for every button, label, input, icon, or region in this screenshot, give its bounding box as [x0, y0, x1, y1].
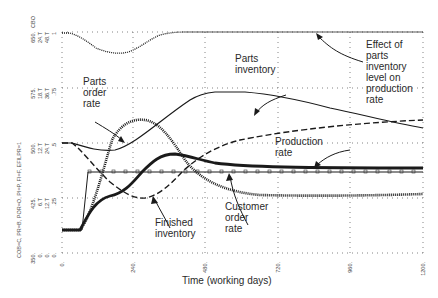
svg-text:24.T: 24.T [44, 142, 50, 154]
x-axis-title: Time (working days) [182, 275, 272, 286]
annotation-parts-inventory: Parts inventory [235, 53, 276, 75]
svg-text:240.: 240. [130, 262, 136, 273]
svg-text:350.: 350. [30, 253, 36, 264]
svg-text:6.T: 6.T [37, 197, 43, 206]
svg-text:12.T: 12.T [44, 197, 50, 209]
svg-text:960.: 960. [347, 262, 353, 273]
annotation-customer-order-rate: Customer order rate [225, 201, 271, 234]
svg-text:18.T: 18.T [37, 87, 43, 99]
svg-text:24.T: 24.T [37, 31, 43, 43]
arrow-finished-icon [151, 196, 158, 204]
svg-text:1: 1 [51, 32, 57, 35]
svg-text:0.: 0. [37, 253, 43, 258]
svg-text:575.: 575. [30, 88, 36, 99]
svg-text:480.: 480. [202, 262, 208, 273]
annotation-parts-order-rate: Parts order rate [83, 76, 109, 109]
annotation-effect: Effect of parts inventory level on produ… [366, 39, 415, 105]
svg-text:48.T: 48.T [44, 31, 50, 43]
svg-text:12.T: 12.T [37, 142, 43, 154]
svg-text:0.: 0. [51, 253, 57, 258]
y-axis-caption: COB=C, PR=B, POR=O, PI=P, FI=F, EFILPR=1 [16, 142, 22, 258]
svg-text:720.: 720. [275, 262, 281, 273]
annotation-arrows [95, 36, 363, 228]
svg-text:650.: 650. [30, 32, 36, 43]
svg-text:425.: 425. [30, 198, 36, 209]
svg-text:CBO: CBO [30, 15, 36, 28]
arrowheads [118, 33, 323, 204]
svg-text:.25: .25 [51, 198, 57, 206]
system-dynamics-chart: Effect of parts inventory level on produ… [0, 0, 438, 298]
svg-text:0.: 0. [44, 253, 50, 258]
x-ticks: 0. 240. 480. 720. 960. 1200. [59, 262, 426, 276]
svg-text:1200.: 1200. [420, 262, 426, 276]
svg-text:.5: .5 [51, 143, 57, 148]
annotation-finished-inventory: Finished inventory [155, 217, 196, 239]
annotation-production-rate: Production rate [275, 136, 326, 158]
svg-text:500.: 500. [30, 143, 36, 154]
arrow-customer-icon [226, 173, 233, 181]
arrow-effect-icon [316, 33, 323, 40]
svg-text:36.T: 36.T [44, 87, 50, 99]
svg-text:0.: 0. [59, 262, 65, 267]
svg-text:.75: .75 [51, 88, 57, 96]
y-ticks: 650. 24.T 48.T 1 CBO 575. 18.T 36.T .75 … [30, 15, 57, 263]
